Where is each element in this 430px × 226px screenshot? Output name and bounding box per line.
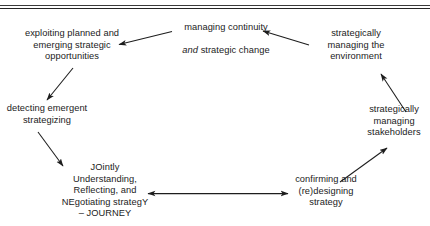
node-exploiting-opportunities: exploiting planned and emerging strategi… bbox=[12, 28, 132, 63]
node-managing-continuity: managing continuity and strategic change bbox=[166, 10, 286, 56]
diagram-canvas: managing continuity and strategic change… bbox=[0, 0, 430, 226]
arrow-exploiting-to-detecting bbox=[47, 68, 73, 100]
node-detecting-emergent-strategizing: detecting emergent strategizing bbox=[1, 103, 93, 126]
node-managing-continuity-italic: and bbox=[182, 45, 198, 55]
node-journey: JOintly Understanding, Reflecting, and N… bbox=[61, 162, 149, 220]
node-strategically-managing-stakeholders: strategically managing stakeholders bbox=[358, 104, 430, 139]
node-confirming-redesigning-strategy: confirming and (re)designing strategy bbox=[292, 174, 360, 209]
node-managing-continuity-line2: strategic change bbox=[198, 45, 270, 55]
node-managing-continuity-line1: managing continuity bbox=[184, 22, 268, 32]
node-strategically-managing-environment: strategically managing the environment bbox=[313, 28, 399, 63]
arrow-detecting-to-journey bbox=[38, 132, 63, 166]
